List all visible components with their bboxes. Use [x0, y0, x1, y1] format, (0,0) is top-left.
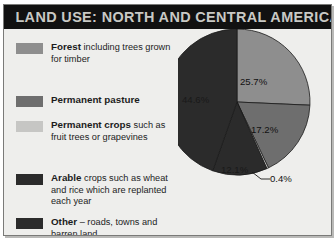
legend-label-strong-permanent-crops: Permanent crops	[51, 119, 131, 130]
page-title: LAND USE: NORTH AND CENTRAL AMERICA	[15, 8, 319, 26]
legend: Forest including trees grown for timberP…	[10, 35, 178, 231]
pie-value-label-arable: 12.1%	[221, 164, 248, 175]
chart-body: Forest including trees grown for timberP…	[4, 29, 331, 235]
pie-slice-forest	[237, 29, 310, 105]
legend-label-arable: Arable crops such as wheat and rice whic…	[51, 172, 177, 208]
pie-value-label-permanent-pasture: 17.2%	[251, 124, 278, 135]
legend-label-other: Other – roads, towns and barren land	[51, 216, 177, 235]
pie-chart: 25.7%17.2%0.4%12.1%44.6%	[178, 29, 331, 235]
legend-swatch-permanent-crops	[16, 121, 43, 132]
legend-swatch-arable	[16, 174, 43, 185]
legend-label-strong-forest: Forest	[51, 41, 81, 52]
legend-label-permanent-crops: Permanent crops such as fruit trees or g…	[51, 119, 177, 143]
pie-value-label-permanent-crops: 0.4%	[270, 173, 292, 184]
legend-swatch-forest	[16, 43, 43, 54]
legend-label-permanent-pasture: Permanent pasture	[51, 94, 177, 107]
legend-label-strong-permanent-pasture: Permanent pasture	[51, 94, 140, 105]
legend-swatch-permanent-pasture	[16, 96, 43, 107]
legend-label-strong-arable: Arable	[51, 172, 82, 183]
title-bar: LAND USE: NORTH AND CENTRAL AMERICA	[4, 5, 331, 29]
legend-label-forest: Forest including trees grown for timber	[51, 41, 177, 65]
legend-label-strong-other: Other	[51, 216, 77, 227]
infographic-panel: LAND USE: NORTH AND CENTRAL AMERICA Fore…	[0, 0, 336, 241]
legend-swatch-other	[16, 218, 43, 229]
pie-value-label-other: 44.6%	[182, 94, 209, 105]
pie-value-label-forest: 25.7%	[240, 76, 267, 87]
